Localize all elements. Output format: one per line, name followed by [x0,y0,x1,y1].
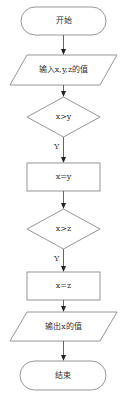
output-label: 输出x的值 [45,322,82,332]
arrow-down-icon [61,49,66,55]
assign2-label: x=z [56,281,71,291]
assign1-label: x=y [56,172,72,182]
decision1-label: x>y [56,112,72,122]
arrow-down-icon [61,157,66,163]
arrow-down-icon [61,203,66,209]
arrow-down-icon [61,266,66,272]
arrow-down-icon [61,306,66,312]
start-label: 开始 [56,16,72,26]
end-label: 结束 [55,371,71,381]
arrow-down-icon [61,355,66,361]
decision2-label: x>z [56,224,71,234]
flowchart-canvas [0,0,124,403]
decision1-yes-label: Y [54,142,59,152]
arrow-down-icon [61,91,66,97]
input-label: 输入x,y,z的值 [39,65,88,75]
decision2-yes-label: Y [54,254,59,264]
